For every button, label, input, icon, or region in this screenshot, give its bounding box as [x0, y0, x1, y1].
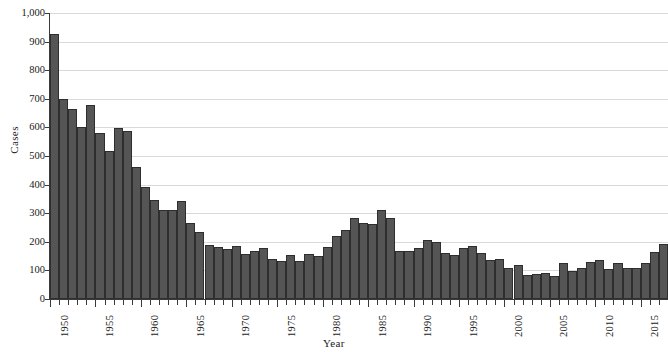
bar: [223, 249, 232, 299]
bar: [95, 133, 104, 299]
x-tick-label-2015: 2015: [649, 315, 660, 337]
bar: [468, 246, 477, 299]
x-tick-mark-1984: [359, 300, 360, 305]
x-tick-mark-2004: [541, 300, 542, 305]
bar: [59, 99, 68, 299]
x-tick-mark-2011: [604, 300, 605, 305]
x-tick-mark-2002: [523, 300, 524, 305]
bar: [495, 259, 504, 299]
x-tick-mark-2016: [650, 300, 651, 305]
x-tick-mark-2017: [659, 300, 660, 305]
x-tick-mark-1998: [486, 300, 487, 305]
x-tick-mark-1963: [168, 300, 169, 305]
x-tick-label-1970: 1970: [240, 315, 251, 337]
x-tick-label-2000: 2000: [513, 315, 524, 337]
x-tick-mark-1997: [477, 300, 478, 305]
x-tick-mark-1961: [150, 300, 151, 305]
bar: [450, 255, 459, 299]
bar: [559, 263, 568, 299]
y-tick-label-100: 100: [0, 265, 45, 275]
x-tick-label-1985: 1985: [377, 315, 388, 337]
bar: [377, 210, 386, 299]
y-axis-title: Cases: [8, 110, 20, 170]
bar: [486, 260, 495, 299]
x-tick-mark-2008: [577, 300, 578, 305]
bar: [277, 261, 286, 299]
bar: [504, 268, 513, 299]
bar: [350, 218, 359, 300]
x-tick-label-1975: 1975: [286, 315, 297, 337]
bar: [441, 253, 450, 299]
bar: [514, 265, 523, 299]
x-tick-mark-2006: [559, 300, 560, 305]
x-tick-mark-1973: [259, 300, 260, 305]
y-tick-label-200: 200: [0, 237, 45, 247]
bar: [177, 201, 186, 299]
y-tick-label-500: 500: [0, 151, 45, 161]
x-tick-mark-1986: [377, 300, 378, 305]
x-tick-mark-1964: [177, 300, 178, 305]
bar: [105, 151, 114, 299]
x-tick-mark-1972: [250, 300, 251, 305]
x-axis-title: Year: [0, 337, 668, 349]
x-tick-mark-1979: [314, 300, 315, 305]
bar: [259, 248, 268, 299]
y-tick-mark-100: [45, 270, 50, 271]
bar: [568, 271, 577, 299]
y-tick-label-600: 600: [0, 122, 45, 132]
x-tick-mark-1974: [268, 300, 269, 305]
x-tick-label-1955: 1955: [104, 315, 115, 337]
y-tick-label-800: 800: [0, 65, 45, 75]
bar: [359, 223, 368, 299]
bar: [341, 230, 350, 299]
y-tick-mark-900: [45, 42, 50, 43]
x-tick-mark-2003: [532, 300, 533, 305]
x-tick-mark-1969: [223, 300, 224, 305]
bar: [386, 218, 395, 300]
x-tick-mark-1989: [404, 300, 405, 305]
x-tick-mark-1999: [495, 300, 496, 305]
y-tick-mark-600: [45, 127, 50, 128]
bar: [577, 268, 586, 299]
bar: [550, 276, 559, 299]
y-tick-mark-200: [45, 242, 50, 243]
y-tick-label-400: 400: [0, 180, 45, 190]
bar: [395, 251, 404, 299]
x-tick-mark-1962: [159, 300, 160, 305]
x-tick-mark-2007: [568, 300, 569, 305]
x-tick-mark-1951: [59, 300, 60, 305]
x-tick-mark-1991: [423, 300, 424, 305]
x-tick-label-1965: 1965: [195, 315, 206, 337]
y-tick-mark-800: [45, 70, 50, 71]
bar-chart: Cases 01002003004005006007008009001,000 …: [0, 0, 668, 352]
x-tick-mark-1978: [304, 300, 305, 305]
bar: [368, 224, 377, 299]
x-tick-mark-2012: [613, 300, 614, 305]
bar: [650, 252, 659, 299]
x-tick-mark-1976: [286, 300, 287, 305]
bar: [214, 247, 223, 299]
x-tick-mark-1953: [77, 300, 78, 305]
x-tick-mark-2014: [632, 300, 633, 305]
x-tick-mark-1996: [468, 300, 469, 305]
x-tick-mark-1981: [332, 300, 333, 305]
x-tick-mark-2001: [514, 300, 515, 305]
bar: [423, 240, 432, 299]
x-tick-label-1995: 1995: [468, 315, 479, 337]
bar: [332, 236, 341, 299]
bar: [195, 232, 204, 299]
bar: [613, 263, 622, 299]
x-tick-label-1950: 1950: [59, 315, 70, 337]
bar: [77, 127, 86, 299]
y-tick-mark-400: [45, 185, 50, 186]
bar: [150, 200, 159, 299]
bar: [595, 260, 604, 299]
bar: [232, 246, 241, 299]
bar: [641, 263, 650, 299]
y-tick-label-700: 700: [0, 94, 45, 104]
x-tick-mark-1958: [123, 300, 124, 305]
bar: [168, 210, 177, 299]
x-tick-mark-1952: [68, 300, 69, 305]
bar: [50, 34, 59, 299]
x-tick-mark-1966: [195, 300, 196, 305]
